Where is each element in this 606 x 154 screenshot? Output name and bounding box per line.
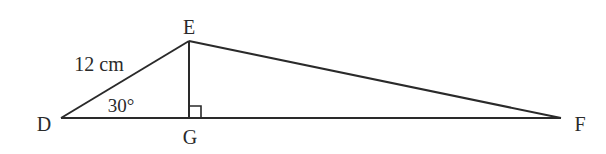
- vertex-label-G: G: [183, 126, 197, 148]
- vertex-label-D: D: [37, 113, 51, 135]
- side-EF: [189, 41, 561, 118]
- vertex-label-E: E: [183, 16, 195, 38]
- triangle-diagram: D E F G 12 cm 30°: [0, 0, 606, 154]
- right-angle-marker: [189, 106, 201, 118]
- vertex-label-F: F: [574, 113, 585, 135]
- side-length-label: 12 cm: [74, 53, 124, 75]
- angle-label: 30°: [108, 95, 135, 116]
